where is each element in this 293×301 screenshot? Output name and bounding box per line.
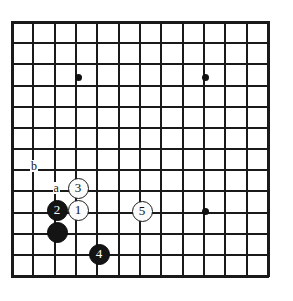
white-stone-1[interactable]: 1 xyxy=(68,200,89,221)
white-stone-5-label: 5 xyxy=(139,204,146,217)
black-stone-2[interactable]: 2 xyxy=(47,200,68,221)
star-point-center-right xyxy=(202,208,209,215)
white-stone-5[interactable]: 5 xyxy=(132,201,153,222)
white-stone-1-label: 1 xyxy=(75,203,82,216)
grid-line-vertical-1 xyxy=(32,21,34,277)
grid-line-vertical-7 xyxy=(160,21,162,277)
point-label-a: a xyxy=(53,182,60,194)
grid-line-vertical-9 xyxy=(203,21,205,277)
go-board-diagram: 12345ba xyxy=(0,0,293,301)
grid-line-vertical-8 xyxy=(182,21,184,277)
black-stone-4[interactable]: 4 xyxy=(89,244,110,265)
star-point-top-right xyxy=(202,74,209,81)
grid-line-vertical-3 xyxy=(75,21,77,277)
grid-line-vertical-11 xyxy=(246,21,248,277)
star-point-top-left xyxy=(75,74,82,81)
grid-line-vertical-10 xyxy=(224,21,226,277)
white-stone-3[interactable]: 3 xyxy=(68,178,89,199)
black-stone-2-label: 2 xyxy=(54,203,61,216)
black-stone-corner[interactable] xyxy=(47,222,68,243)
grid-line-vertical-6 xyxy=(139,21,141,277)
point-label-b: b xyxy=(30,160,38,172)
grid-line-vertical-5 xyxy=(118,21,120,277)
grid-line-vertical-4 xyxy=(96,21,98,277)
grid-line-vertical-0 xyxy=(11,21,14,277)
grid-line-vertical-12 xyxy=(267,21,270,277)
goban-grid: 12345ba xyxy=(0,0,293,301)
white-stone-3-label: 3 xyxy=(75,181,82,194)
black-stone-4-label: 4 xyxy=(96,247,103,260)
